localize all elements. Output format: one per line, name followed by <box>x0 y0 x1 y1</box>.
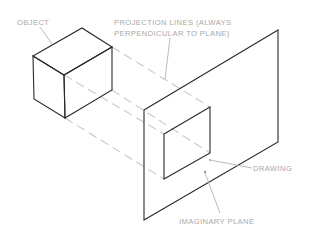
object-box <box>33 28 112 118</box>
object-top-face <box>33 28 112 75</box>
label-object: OBJECT <box>17 18 49 27</box>
drawing-leader-dot <box>209 159 211 161</box>
projection-diagram: OBJECT PROJECTION LINES (ALWAYS PERPENDI… <box>0 0 311 238</box>
imaginary-plane <box>144 30 278 220</box>
plane-leader <box>205 173 220 213</box>
projection-line-front-top <box>64 75 164 134</box>
object-leader <box>40 27 52 44</box>
object-right-face <box>64 47 112 118</box>
label-imaginary-plane: IMAGINARY PLANE <box>179 217 254 226</box>
projection-lines <box>64 47 210 179</box>
label-projection-lines-1: PROJECTION LINES (ALWAYS <box>114 18 231 27</box>
projection-line-top <box>112 47 210 107</box>
label-drawing: DRAWING <box>253 164 292 173</box>
plane-leader-dot <box>204 171 206 173</box>
label-projection-lines-2: PERPENDICULAR TO PLANE) <box>114 29 230 38</box>
object-left-face <box>33 56 65 118</box>
drawing-shape <box>164 107 210 179</box>
projection-leader <box>165 38 170 79</box>
projection-line-bottom <box>65 118 164 179</box>
